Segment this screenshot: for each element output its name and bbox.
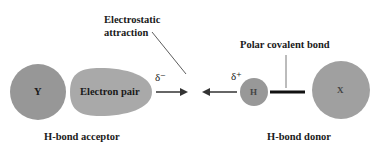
electron-pair-label: Electron pair [80,86,140,98]
atom-label-y: Y [34,86,42,98]
delta-plus-label: δ⁺ [231,70,242,83]
polar-covalent-bond-label: Polar covalent bond [240,39,330,51]
electrostatic-label: Electrostatic [104,14,160,26]
atom-label-h: H [250,86,257,98]
attraction-label: attraction [104,27,148,39]
arrow-left-head [202,88,210,96]
atom-label-x: X [337,84,344,96]
delta-minus-label: δ⁻ [155,71,166,84]
electrostatic-pointer [152,32,186,74]
h-bond-acceptor-label: H-bond acceptor [44,131,120,143]
arrow-right-head [180,88,188,96]
h-bond-donor-label: H-bond donor [267,131,331,143]
